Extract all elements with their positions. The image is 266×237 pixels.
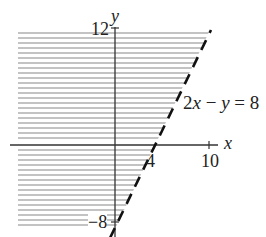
- x-tick-label-4: 4: [146, 152, 155, 170]
- equation-y: y: [221, 92, 229, 113]
- shaded-region: [18, 33, 215, 225]
- equation-minus: −: [201, 92, 221, 113]
- equation-rest: = 8: [230, 92, 260, 113]
- equation-label: 2x − y = 8: [183, 93, 259, 112]
- x-tick-label-10: 10: [201, 152, 219, 170]
- y-tick-label-12: 12: [91, 20, 109, 38]
- x-axis-label: x: [224, 134, 232, 152]
- y-axis-label: y: [111, 7, 119, 25]
- graph-canvas: [0, 0, 266, 237]
- equation-coef: 2: [183, 92, 193, 113]
- y-tick-label-neg8: −8: [88, 213, 107, 231]
- equation-x: x: [193, 92, 201, 113]
